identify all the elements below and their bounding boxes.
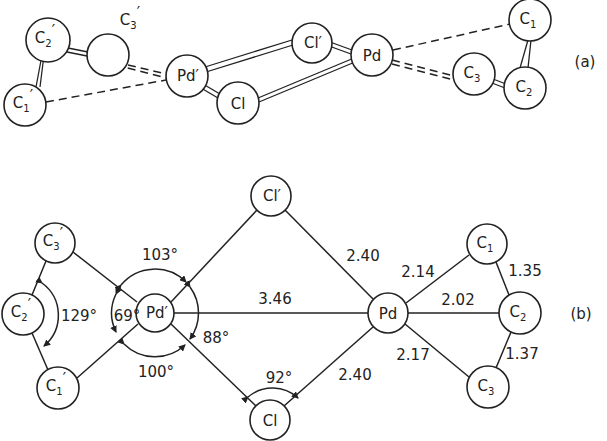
bond-pdp-clp	[205, 40, 292, 67]
label-c3-prime-a: C3′	[120, 4, 141, 31]
atom-c1-prime-b: C1′	[37, 367, 79, 409]
bond-pdp-clp	[171, 210, 257, 302]
atom-cl-b: Cl	[250, 400, 290, 440]
atom-cl-prime-a: Cl′	[292, 23, 332, 63]
atom-cl-prime-b: Cl′	[251, 176, 291, 216]
svg-text:Cl′: Cl′	[304, 34, 323, 52]
angle-arc-103	[121, 269, 186, 285]
panel-b: C3′ C2′ C1′ Pd′ Cl′ Cl Pd C1	[2, 176, 592, 440]
svg-text:Pd: Pd	[363, 47, 382, 65]
svg-text:Pd′: Pd′	[146, 304, 169, 322]
svg-text:Pd′: Pd′	[177, 67, 200, 85]
atom-c1-prime-a: C1′	[4, 84, 46, 126]
bond-c1p-pdp	[77, 324, 138, 378]
bond-length-pd-pdp: 3.46	[258, 290, 291, 308]
atom-pd-prime-b: Pd′	[136, 294, 174, 332]
atom-c3-prime-a	[87, 34, 129, 76]
bond-c3p-c2p	[32, 261, 46, 295]
atom-c3-a: C3	[453, 53, 495, 95]
bond-length-pd-c3: 2.17	[396, 346, 429, 364]
angle-label-100: 100°	[138, 363, 174, 381]
panel-label-a: (a)	[575, 53, 596, 71]
atom-c2-prime-a: C2′	[26, 18, 70, 62]
bond-length-c2-c3: 1.37	[505, 345, 538, 363]
bond-length-pd-cl: 2.40	[338, 366, 371, 384]
dash-pd-c3	[392, 60, 454, 76]
atom-c2-b: C2	[499, 292, 541, 334]
atom-c1-a: C1	[509, 0, 551, 41]
angle-label-129: 129°	[61, 307, 97, 325]
atom-c3-prime-b: C3′	[35, 223, 75, 263]
bond-length-pd-c1: 2.14	[401, 263, 434, 281]
atom-c2-a: C2	[504, 67, 546, 109]
svg-text:Cl: Cl	[231, 95, 246, 113]
panel-label-b: (b)	[570, 305, 591, 323]
angle-label-103: 103°	[142, 246, 178, 264]
svg-text:Cl′: Cl′	[263, 187, 282, 205]
angle-label-69: 69°	[114, 307, 141, 325]
atom-pd-b: Pd	[368, 293, 408, 333]
atom-pd-prime-a: Pd′	[166, 55, 208, 97]
atom-c1-b: C1	[467, 224, 507, 264]
atom-c2-prime-b: C2′	[2, 293, 44, 335]
angle-label-88: 88°	[203, 329, 230, 347]
bond-length-pd-clp: 2.40	[346, 247, 379, 265]
bond-c2p-c1p	[32, 333, 48, 370]
atom-c3-b: C3	[467, 366, 509, 408]
svg-text:Cl: Cl	[263, 412, 278, 430]
bond-c1-c2	[496, 262, 509, 295]
panel-a: C2′ C3′ C1′ Pd′ Cl Cl′ Pd C1	[4, 0, 595, 126]
svg-text:Pd: Pd	[379, 305, 398, 323]
atom-cl-a: Cl	[217, 82, 259, 124]
bond-c3p-pdp	[73, 252, 137, 302]
bond-length-pd-c2: 2.02	[441, 291, 474, 309]
angle-label-92: 92°	[266, 369, 293, 387]
bond-length-c1-c2: 1.35	[508, 262, 541, 280]
angle-arc-100	[124, 344, 185, 357]
dash-pd-c1	[393, 24, 510, 50]
angle-arc-92	[248, 388, 298, 398]
molecular-structure-diagram: C2′ C3′ C1′ Pd′ Cl Cl′ Pd C1	[0, 0, 607, 441]
bond-cl-pd	[258, 58, 354, 98]
atom-pd-a: Pd	[351, 34, 393, 76]
dash-c1p-pdp	[46, 80, 166, 102]
